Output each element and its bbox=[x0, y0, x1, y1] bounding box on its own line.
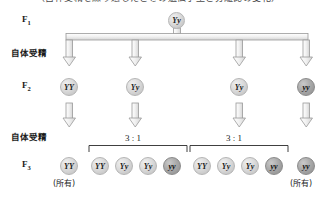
ratio-left: 3 : 1 bbox=[125, 133, 141, 143]
genotype-f2-4: yy bbox=[297, 78, 315, 96]
genotype-f3-2: YY bbox=[91, 157, 109, 175]
genotype-label: YY bbox=[64, 162, 74, 171]
genotype-label: Yy bbox=[246, 162, 254, 171]
genotype-label: yy bbox=[270, 162, 277, 171]
f1-to-f2-branch-arrow bbox=[63, 28, 313, 66]
genotype-label: YY bbox=[64, 83, 74, 92]
genotype-f3-5: yy bbox=[163, 157, 181, 175]
row-label-f1: F1 bbox=[22, 14, 31, 26]
genotype-label: yy bbox=[302, 162, 309, 171]
row-label-f3: F3 bbox=[22, 159, 31, 171]
figure-canvas: （自体受精を繰り返したときの遺伝子型と分離比の変化） bbox=[0, 0, 333, 197]
annotation-all-left: (所有) bbox=[53, 177, 75, 188]
genotype-f3-7: Yy bbox=[217, 157, 235, 175]
genotype-label: Yy bbox=[120, 162, 128, 171]
genotype-label: yy bbox=[168, 162, 175, 171]
genotype-label: YY bbox=[197, 162, 207, 171]
arrow-f2-4 bbox=[300, 103, 313, 127]
genotype-f1-1: Yy bbox=[168, 12, 185, 29]
genotype-label: Yy bbox=[131, 83, 139, 92]
process-label-selfing-2: 自体受精 bbox=[11, 130, 47, 142]
genotype-f3-8: Yy bbox=[241, 157, 259, 175]
annotation-all-right: (所有) bbox=[290, 177, 312, 188]
genotype-label: Yy bbox=[222, 162, 230, 171]
f3-group-brackets bbox=[89, 146, 288, 153]
genotype-f3-9: yy bbox=[265, 157, 283, 175]
ratio-right: 3 : 1 bbox=[226, 133, 242, 143]
genotype-f3-10: yy bbox=[297, 157, 315, 175]
genotype-label: YY bbox=[95, 162, 105, 171]
genotype-f3-3: Yy bbox=[115, 157, 133, 175]
genotype-f3-6: YY bbox=[193, 157, 211, 175]
genotype-f3-1: YY bbox=[60, 157, 78, 175]
bracket-left bbox=[89, 146, 187, 153]
process-label-selfing-1: 自体受精 bbox=[11, 46, 47, 58]
genotype-label: yy bbox=[302, 83, 309, 92]
bracket-right bbox=[190, 146, 288, 153]
genotype-label: Yy bbox=[144, 162, 152, 171]
genotype-f2-2: Yy bbox=[126, 78, 144, 96]
genotype-label: Yy bbox=[172, 16, 180, 25]
arrow-f2-2 bbox=[129, 103, 142, 127]
genotype-f3-4: Yy bbox=[139, 157, 157, 175]
f2-to-f3-arrows bbox=[63, 103, 313, 127]
row-label-f2: F2 bbox=[22, 80, 31, 92]
arrow-f2-3 bbox=[233, 103, 246, 127]
arrow-f2-1 bbox=[63, 103, 76, 127]
genotype-f2-1: YY bbox=[60, 78, 78, 96]
genotype-label: Yy bbox=[235, 83, 243, 92]
genotype-f2-3: Yy bbox=[230, 78, 248, 96]
